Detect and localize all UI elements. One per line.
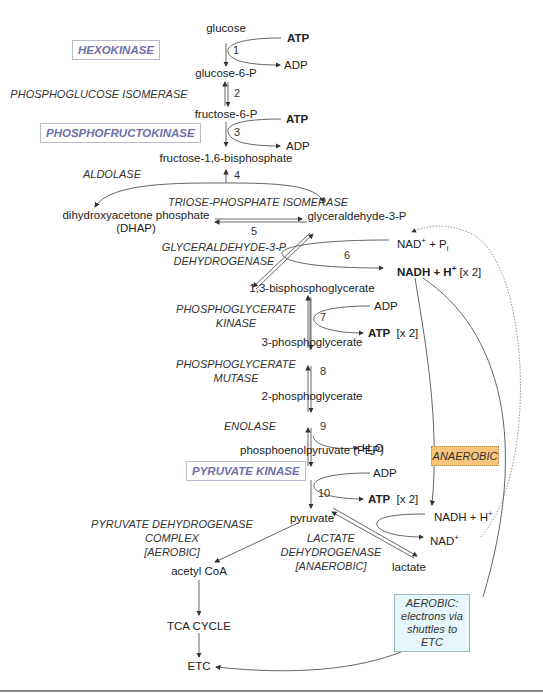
enzyme-enolase: ENOLASE (224, 419, 276, 433)
bottom-divider (0, 690, 543, 692)
enzyme-phosphofructokinase: PHOSPHOFRUCTOKINASE (40, 123, 201, 143)
enzyme-pyruvate-dehydrogenase-complex: PYRUVATE DEHYDROGENASE COMPLEX [AEROBIC] (91, 517, 253, 559)
cofactor-nad-ldh: NAD+ (430, 531, 459, 548)
cofactor-h2o-step9: H2O (362, 442, 384, 459)
enzyme-phosphoglycerate-mutase: PHOSPHOGLYCERATE MUTASE (176, 357, 296, 385)
metabolite-glucose-6-p: glucose-6-P (195, 67, 256, 80)
step-number-2: 2 (234, 87, 240, 99)
enzyme-aldolase: ALDOLASE (83, 167, 141, 181)
step-number-1: 1 (233, 44, 239, 56)
step-number-5: 5 (251, 225, 257, 237)
metabolite-glucose: glucose (206, 22, 246, 35)
metabolite-etc: ETC (188, 660, 211, 673)
metabolite-lactate: lactate (392, 561, 426, 574)
enzyme-pyruvate-kinase: PYRUVATE KINASE (186, 461, 306, 481)
cofactor-adp-step10: ADP (373, 467, 397, 480)
cofactor-atp-step1: ATP (287, 32, 309, 45)
cofactor-atp-step3: ATP (286, 113, 308, 126)
cofactor-nadh-step6: NADH + H+ [x 2] (397, 262, 481, 279)
step-number-3: 3 (234, 126, 240, 138)
cofactor-atp-step7: ATP [x 2] (368, 327, 418, 340)
metabolite-fructose-1-6-bisphosphate: fructose-1,6-bisphosphate (160, 152, 293, 165)
enzyme-lactate-dehydrogenase: LACTATE DEHYDROGENASE [ANAEROBIC] (281, 531, 382, 573)
enzyme-triose-phosphate-isomerase: TRIOSE-PHOSPHATE ISOMERASE (168, 195, 348, 209)
step-number-6: 6 (344, 249, 350, 261)
metabolite-dhap: dihydroxyacetone phosphate (62, 209, 209, 222)
metabolite-acetyl-coa: acetyl CoA (171, 565, 227, 578)
anaerobic-callout: ANAEROBIC (431, 446, 499, 466)
step-number-4: 4 (234, 169, 240, 181)
enzyme-phosphoglycerate-kinase: PHOSPHOGLYCERATE KINASE (176, 302, 296, 330)
metabolite-glyceraldehyde-3-p: glyceraldehyde-3-P (307, 210, 406, 223)
step-number-7: 7 (320, 311, 326, 323)
step-number-10: 10 (318, 487, 330, 499)
metabolite-fructose-6-p: fructose-6-P (195, 108, 258, 121)
metabolite-1-3-bisphosphoglycerate: 1,3-bisphosphoglycerate (249, 282, 374, 295)
metabolite-pyruvate: pyruvate (290, 512, 334, 525)
cofactor-adp-step7: ADP (374, 300, 398, 313)
cofactor-adp-step1: ADP (284, 59, 308, 72)
metabolite-dhap-abbrev: (DHAP) (116, 222, 156, 235)
glycolysis-diagram: HEXOKINASE PHOSPHOFRUCTOKINASE PYRUVATE … (0, 0, 543, 693)
aerobic-callout: AEROBIC: electrons via shuttles to ETC (394, 594, 470, 652)
step-number-8: 8 (320, 365, 326, 377)
cofactor-nad-pi-step6: NAD+ + Pi (397, 234, 449, 255)
cofactor-nadh-ldh: NADH + H+ (434, 507, 493, 524)
enzyme-gapdh: GLYCERALDEHYDE-3-P DEHYDROGENASE (162, 240, 286, 268)
cofactor-adp-step3: ADP (286, 140, 310, 153)
metabolite-tca-cycle: TCA CYCLE (167, 620, 231, 633)
metabolite-3-phosphoglycerate: 3-phosphoglycerate (261, 336, 362, 349)
enzyme-phosphoglucose-isomerase: PHOSPHOGLUCOSE ISOMERASE (10, 87, 187, 101)
cofactor-atp-step10: ATP [x 2] (368, 493, 418, 506)
enzyme-hexokinase: HEXOKINASE (72, 40, 160, 60)
metabolite-2-phosphoglycerate: 2-phosphoglycerate (261, 390, 362, 403)
step-number-9: 9 (320, 420, 326, 432)
